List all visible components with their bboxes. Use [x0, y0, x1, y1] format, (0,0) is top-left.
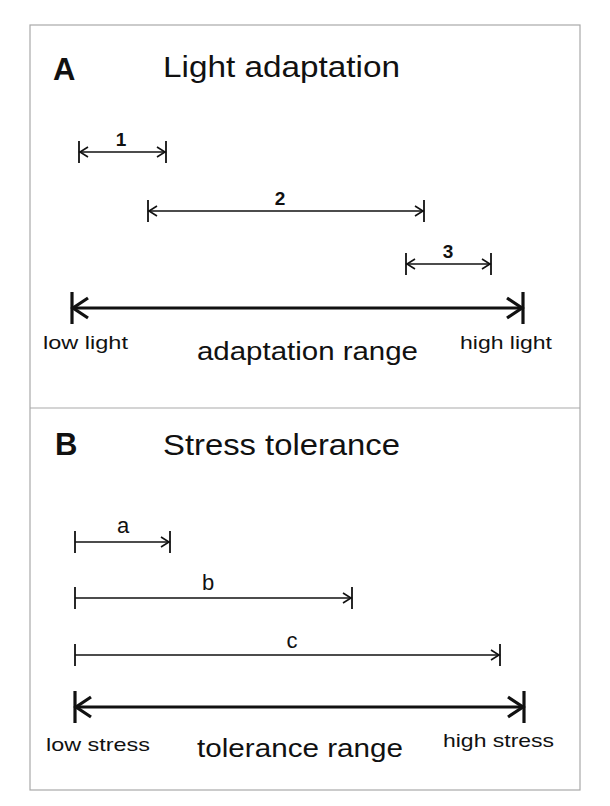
tolerance-bar-b: b — [75, 570, 352, 609]
panel-title-light-adaptation: Light adaptation — [163, 51, 400, 83]
tolerance-range-label: tolerance range — [197, 733, 403, 763]
panel-a: A Light adaptation 123 low light high li… — [43, 51, 553, 366]
tolerance-bars: abc — [75, 513, 500, 666]
figure: A Light adaptation 123 low light high li… — [0, 0, 610, 806]
high-stress-label: high stress — [443, 730, 554, 751]
bar-label-b: b — [202, 570, 214, 595]
bar-label-c: c — [287, 628, 298, 653]
bar-label-2: 2 — [275, 188, 286, 209]
adaptation-range-axis — [72, 292, 523, 324]
bar-label-a: a — [117, 513, 130, 538]
tolerance-range-axis — [75, 691, 524, 723]
panel-letter-b: B — [55, 427, 77, 462]
bar-label-1: 1 — [116, 129, 127, 150]
low-light-label: low light — [43, 332, 129, 353]
high-light-label: high light — [460, 332, 553, 353]
range-diagram: A Light adaptation 123 low light high li… — [0, 0, 610, 806]
low-stress-label: low stress — [46, 734, 150, 755]
adaptation-bar-1: 1 — [79, 129, 166, 163]
panel-title-stress-tolerance: Stress tolerance — [163, 429, 400, 461]
tolerance-bar-a: a — [75, 513, 170, 553]
panel-letter-a: A — [53, 52, 75, 87]
adaptation-bar-3: 3 — [406, 241, 491, 275]
bar-label-3: 3 — [443, 241, 454, 262]
tolerance-bar-c: c — [75, 628, 500, 666]
adaptation-bar-2: 2 — [148, 188, 424, 222]
adaptation-bars: 123 — [79, 129, 491, 275]
adaptation-range-label: adaptation range — [197, 336, 418, 366]
panel-b: B Stress tolerance abc low stress high s… — [46, 427, 554, 763]
